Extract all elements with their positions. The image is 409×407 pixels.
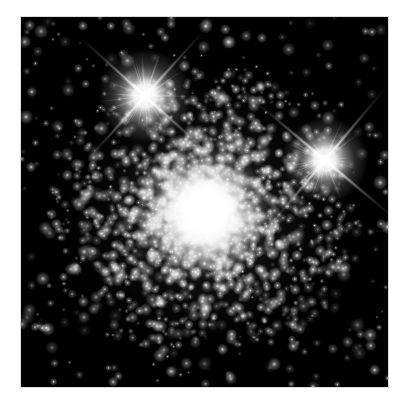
photograph-frame	[0, 0, 409, 407]
sky-image-plate	[21, 17, 388, 387]
bright-stars-layer	[21, 17, 388, 387]
